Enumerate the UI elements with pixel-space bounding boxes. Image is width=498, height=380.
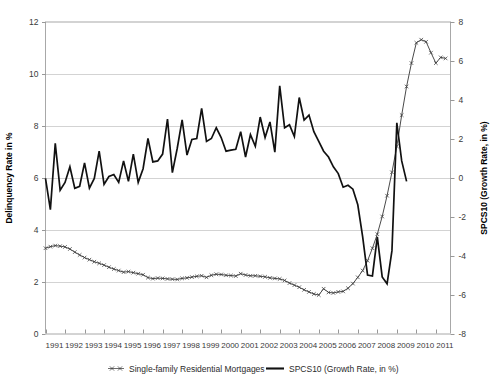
left-tick-label-10: 10	[29, 69, 39, 79]
left-tick-label-0: 0	[34, 329, 39, 339]
x-tick-label-2003: 2003	[280, 341, 298, 350]
x-tick-label-2008: 2008	[377, 341, 395, 350]
x-tick-label-2006: 2006	[338, 341, 356, 350]
right-tick-label-4: 4	[459, 95, 464, 105]
x-tick-label-1997: 1997	[163, 341, 181, 350]
x-tick-label-1998: 1998	[182, 341, 200, 350]
left-axis-title: Delinquency Rate in %	[4, 132, 14, 224]
chart-background	[0, 0, 498, 380]
x-tick-label-1993: 1993	[85, 341, 103, 350]
left-tick-label-12: 12	[29, 17, 39, 27]
x-tick-label-2009: 2009	[397, 341, 415, 350]
right-tick-label-neg2: -2	[459, 212, 467, 222]
right-axis-title: SPCS10 (Growth Rate, in %)	[479, 121, 489, 235]
right-tick-label-neg6: -6	[459, 290, 467, 300]
x-tick-label-2000: 2000	[221, 341, 239, 350]
legend-item-single-family-residential-mortgages: Single-family Residential Mortgages	[108, 364, 265, 374]
right-tick-label-0: 0	[459, 173, 464, 183]
legend-label-single-family-residential-mortgages: Single-family Residential Mortgages	[129, 364, 265, 374]
right-tick-label-2: 2	[459, 134, 464, 144]
left-tick-label-4: 4	[34, 225, 39, 235]
x-tick-label-1994: 1994	[104, 341, 122, 350]
x-tick-label-1996: 1996	[143, 341, 161, 350]
legend-label-spcs10-growth-rate: SPCS10 (Growth Rate, in %)	[289, 364, 399, 374]
left-tick-label-2: 2	[34, 277, 39, 287]
x-tick-label-2005: 2005	[319, 341, 337, 350]
chart-container: 024681012 -8-6-4-202468 1991199219931994…	[0, 0, 498, 380]
x-tick-label-2010: 2010	[416, 341, 434, 350]
left-tick-label-8: 8	[34, 121, 39, 131]
x-axis-tick-labels: 1991199219931994199519961997199819992000…	[46, 341, 454, 350]
legend: Single-family Residential Mortgages SPCS…	[108, 364, 399, 374]
x-tick-label-1999: 1999	[202, 341, 220, 350]
right-tick-label-neg4: -4	[459, 251, 467, 261]
x-tick-label-1991: 1991	[46, 341, 64, 350]
x-tick-label-1992: 1992	[65, 341, 83, 350]
left-tick-label-6: 6	[34, 173, 39, 183]
x-tick-label-2002: 2002	[260, 341, 278, 350]
delinquency-vs-spcs10-growth-chart: 024681012 -8-6-4-202468 1991199219931994…	[0, 0, 498, 380]
right-tick-label-8: 8	[459, 17, 464, 27]
x-tick-label-1995: 1995	[124, 341, 142, 350]
right-tick-label-neg8: -8	[459, 329, 467, 339]
x-tick-label-2001: 2001	[241, 341, 259, 350]
x-tick-label-2011: 2011	[436, 341, 454, 350]
x-tick-label-2007: 2007	[358, 341, 376, 350]
right-tick-label-6: 6	[459, 56, 464, 66]
x-tick-label-2004: 2004	[299, 341, 317, 350]
